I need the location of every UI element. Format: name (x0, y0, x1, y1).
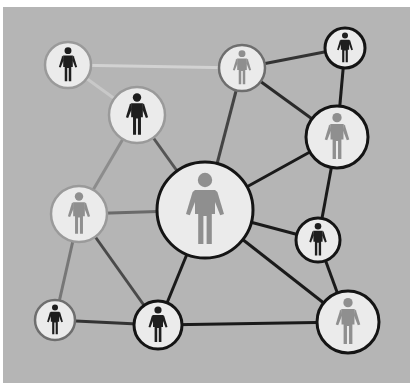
person-node-E (306, 106, 368, 168)
person-node-H (296, 218, 340, 262)
person-node-G (51, 186, 107, 242)
person-node-K (317, 291, 379, 353)
person-node-F (157, 162, 253, 258)
person-node-A (45, 42, 91, 88)
person-node-C (219, 45, 265, 91)
person-node-I (35, 300, 75, 340)
person-node-D (325, 28, 365, 68)
network-diagram (0, 0, 416, 387)
person-node-B (109, 87, 165, 143)
person-node-J (134, 301, 182, 349)
